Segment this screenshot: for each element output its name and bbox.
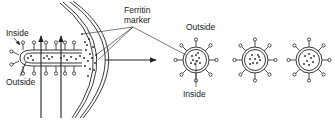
label-ferritin: Ferritin [124,6,150,15]
diagram-canvas [0,0,335,122]
label-outside-right: Outside [186,23,215,32]
label-marker: marker [124,16,150,25]
ferritin-leader-lines [83,27,186,60]
ferritin-endocytosis-diagram: Inside Outside Ferritin marker Outside I… [0,0,335,122]
invagination-tube [20,50,82,66]
label-inside-left: Inside [6,29,29,38]
label-outside-left: Outside [6,78,35,87]
vesicle-2 [233,38,277,82]
ferritin-particles-left [27,33,97,77]
label-inside-right: Inside [183,90,206,99]
vesicle-3 [287,38,331,82]
upward-arrows [41,36,61,118]
vesicle-1 [174,38,218,87]
